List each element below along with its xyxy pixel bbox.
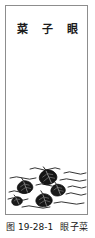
leaf-4-blade	[35, 192, 54, 208]
pondweed-illustration	[6, 156, 89, 212]
pondweed-illustration-svg	[6, 156, 89, 212]
leaf-1	[36, 163, 58, 186]
figure-caption-name: 眼子菜	[60, 222, 89, 232]
leaf-4	[34, 189, 53, 209]
leaf-5-petiole	[14, 194, 16, 197]
leaf-3-blade	[49, 182, 66, 197]
wave-3-line	[10, 177, 36, 179]
wave-2-line	[64, 172, 86, 174]
wave-4-line	[60, 179, 86, 181]
leaf-4-petiole	[41, 190, 43, 194]
leaf-5	[10, 193, 24, 207]
plate-title: 菜 子 眼	[6, 23, 89, 36]
figure-page: 菜 子 眼	[0, 0, 95, 238]
wave-8-line	[66, 193, 86, 195]
leaf-2-blade	[16, 179, 34, 195]
floating-leaves-group	[10, 163, 67, 208]
illustration-frame: 菜 子 眼	[5, 5, 88, 215]
wave-6-line	[68, 186, 86, 188]
figure-caption: 图 19-28-1眼子菜	[0, 221, 95, 233]
leaf-5-blade	[10, 195, 23, 207]
wave-10-line	[54, 202, 84, 204]
figure-caption-number: 图 19-28-1	[6, 222, 53, 232]
leaf-3-petiole	[55, 181, 57, 184]
